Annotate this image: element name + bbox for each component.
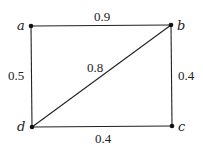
node-b [169, 23, 174, 28]
node-label-c: c [178, 119, 186, 134]
weight-label-d-b: 0.8 [87, 60, 103, 75]
edge-d-b [32, 25, 171, 127]
weight-label-a-d: 0.5 [8, 68, 24, 83]
node-d [30, 125, 35, 130]
graph-diagram: a b c d 0.9 0.5 0.8 0.4 0.4 [0, 0, 203, 149]
weight-label-a-b: 0.9 [94, 9, 110, 24]
node-label-b: b [177, 18, 185, 33]
node-label-d: d [17, 119, 25, 134]
weight-label-d-c: 0.4 [95, 131, 112, 146]
edge-a-b [31, 25, 171, 26]
edge-b-c [171, 25, 172, 126]
node-a [29, 24, 34, 29]
node-label-a: a [17, 18, 25, 33]
node-c [170, 124, 175, 129]
edge-a-d [31, 26, 32, 127]
weight-label-b-c: 0.4 [178, 68, 195, 83]
edge-d-c [32, 126, 172, 127]
